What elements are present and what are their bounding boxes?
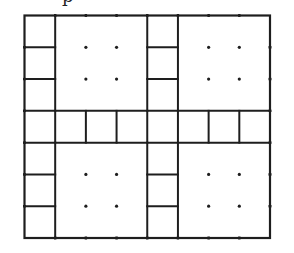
top-left-block-dot [115,77,118,80]
bottom-right-block-dot [207,205,210,208]
bottom-right-block-dot [207,173,210,176]
bottom-right-block-dot [238,173,241,176]
top-right-block-dot [238,46,241,49]
top-right-block-dot [207,77,210,80]
bottom-left-block-dot [115,205,118,208]
top-left-block-dot [84,77,87,80]
top-left-block-dot [84,46,87,49]
bottom-left-block-dot [115,173,118,176]
grid-dots [84,46,241,208]
top-right-block-dot [207,46,210,49]
grid-lines [25,16,271,239]
bottom-right-block-dot [238,205,241,208]
bottom-left-block-dot [84,173,87,176]
top-right-block-dot [238,77,241,80]
grid-diagram [0,0,294,253]
top-left-block-dot [115,46,118,49]
bottom-left-block-dot [84,205,87,208]
